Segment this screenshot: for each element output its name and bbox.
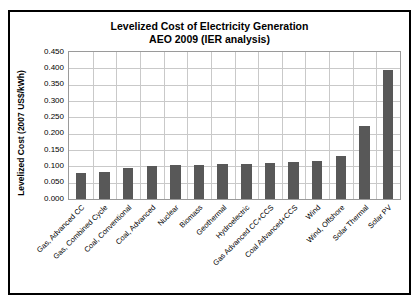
y-axis-title: Levelized Cost (2007 US$/kWh) [14,58,28,208]
y-axis-tick-label: 0.150 [28,145,64,154]
bar [241,164,251,199]
bar [359,126,369,199]
plot-area [68,51,401,200]
bar [383,70,393,199]
y-axis-tick-label: 0.050 [28,177,64,186]
screenshot-root: Levelized Cost of Electricity Generation… [0,0,419,305]
y-axis-tick-label: 0.300 [28,96,64,105]
bar [312,161,322,199]
bar-series [69,52,400,199]
chart-title-line-1: Levelized Cost of Electricity Generation [10,20,409,33]
bar [194,165,204,199]
bar [170,165,180,199]
chart-title-line-2: AEO 2009 (IER analysis) [10,33,409,46]
y-axis-tick-label: 0.200 [28,128,64,137]
chart-title: Levelized Cost of Electricity Generation… [10,20,409,46]
bar [123,168,133,199]
y-axis-tick-labels: 0.4500.4000.3500.3000.2500.2000.1500.100… [28,51,64,219]
y-axis-tick-label: 0.000 [28,194,64,203]
y-axis-tick-label: 0.250 [28,112,64,121]
chart-frame: Levelized Cost of Electricity Generation… [8,10,411,295]
y-axis-tick-label: 0.400 [28,63,64,72]
y-axis-tick-label: 0.350 [28,79,64,88]
y-axis-tick-label: 0.450 [28,47,64,56]
bar [265,163,275,199]
bar [99,172,109,199]
bar [217,164,227,199]
bar [336,156,346,199]
bar [288,162,298,199]
x-axis-tick-labels: Gas, Advanced CCGas, Combined CycleCoal,… [68,201,401,293]
y-axis-tick-label: 0.100 [28,161,64,170]
bar [147,166,157,199]
y-axis-title-text: Levelized Cost (2007 US$/kWh) [16,70,26,196]
bar [76,173,86,199]
